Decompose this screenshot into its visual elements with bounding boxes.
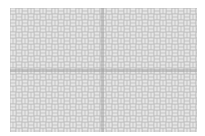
horizontal-band xyxy=(10,69,197,72)
basket-weave-pattern xyxy=(0,0,205,136)
pattern-svg xyxy=(0,0,205,136)
